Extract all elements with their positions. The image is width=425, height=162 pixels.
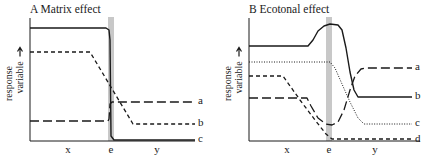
y-arrow-icon (237, 48, 242, 57)
curve-label-a: a (198, 94, 203, 106)
x-tick-y: y (372, 143, 378, 155)
x-tick-labels: xey (65, 143, 160, 155)
panel-title: B Ecotonal effect (249, 3, 330, 15)
figure: A Matrix effect response variable xey ab… (0, 0, 425, 162)
x-tick-x: x (65, 143, 71, 155)
curve-label-b: b (198, 116, 204, 128)
ecotone-band (326, 17, 332, 141)
x-tick-e: e (109, 143, 114, 155)
y-label-line-2: variable (14, 61, 25, 94)
y-arrow-icon (18, 48, 23, 57)
panel-b-ecotonal-effect: B Ecotonal effect response variable xey … (222, 3, 421, 155)
panel-a-matrix-effect: A Matrix effect response variable xey ab… (3, 3, 204, 155)
x-tick-e: e (327, 143, 332, 155)
x-tick-x: x (284, 143, 290, 155)
y-label-line-2: variable (233, 61, 244, 94)
curve-label-c: c (198, 132, 203, 144)
curve-label-c: c (415, 116, 420, 128)
y-label-line-1: response (222, 65, 233, 101)
curves: abc (30, 28, 204, 144)
curve-label-b: b (415, 89, 421, 101)
y-label-line-1: response (3, 65, 14, 101)
curves: abcd (249, 24, 421, 144)
y-axis-label: response variable (3, 48, 25, 102)
curve-label-a: a (415, 60, 420, 72)
curve-label-d: d (415, 132, 421, 144)
x-tick-labels: xey (284, 143, 378, 155)
panel-title: A Matrix effect (30, 3, 101, 15)
x-tick-y: y (154, 143, 160, 155)
y-axis-label: response variable (222, 48, 244, 102)
